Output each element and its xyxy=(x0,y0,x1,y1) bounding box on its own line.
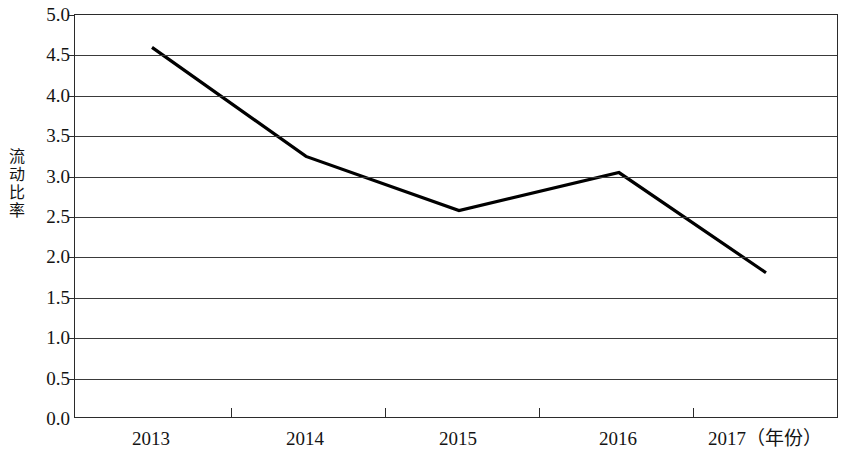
gridline xyxy=(75,136,837,137)
gridline xyxy=(75,379,837,380)
gridline xyxy=(75,257,837,258)
x-axis-tick-label: 2013 xyxy=(132,428,170,450)
y-axis-tick-label: 2.5 xyxy=(26,207,70,226)
y-axis-tick-mark xyxy=(69,217,75,218)
y-axis-tick-label: 1.0 xyxy=(26,328,70,347)
x-axis-tick-label: 2014 xyxy=(286,428,324,450)
y-axis-tick-mark xyxy=(69,136,75,137)
gridline xyxy=(75,338,837,339)
y-axis-tick-mark xyxy=(69,298,75,299)
y-axis-tick-mark xyxy=(69,257,75,258)
gridline xyxy=(75,96,837,97)
gridline xyxy=(75,217,837,218)
plot-area xyxy=(74,14,838,418)
x-axis-tick-mark xyxy=(231,408,232,417)
x-axis-tick-label: 2017（年份） xyxy=(708,428,822,450)
x-axis-tick-label: 2016 xyxy=(599,428,637,450)
y-axis-tick-mark xyxy=(69,177,75,178)
y-axis-tick-label: 2.0 xyxy=(26,247,70,266)
x-axis-tick-mark xyxy=(385,408,386,417)
y-axis-tick-label: 4.5 xyxy=(26,45,70,64)
y-axis-tick-label: 0.0 xyxy=(26,409,70,428)
y-axis-tick-label: 0.5 xyxy=(26,369,70,388)
y-axis-tick-label: 5.0 xyxy=(26,5,70,24)
y-axis-tick-mark xyxy=(69,55,75,56)
y-axis-tick-labels: 5.04.54.03.53.02.52.01.51.00.50.0 xyxy=(0,0,70,457)
y-axis-tick-mark xyxy=(69,338,75,339)
gridline xyxy=(75,55,837,56)
y-axis-tick-label: 3.0 xyxy=(26,167,70,186)
y-axis-tick-label: 3.5 xyxy=(26,126,70,145)
x-axis-tick-mark xyxy=(693,408,694,417)
x-axis-tick-mark xyxy=(539,408,540,417)
gridline xyxy=(75,298,837,299)
y-axis-tick-mark xyxy=(69,379,75,380)
line-chart: 流 动 比 率 5.04.54.03.53.02.52.01.51.00.50.… xyxy=(0,0,858,457)
x-axis-tick-label: 2015 xyxy=(439,428,477,450)
y-axis-tick-mark xyxy=(69,96,75,97)
y-axis-tick-mark xyxy=(69,15,75,16)
y-axis-tick-label: 1.5 xyxy=(26,288,70,307)
y-axis-tick-label: 4.0 xyxy=(26,86,70,105)
gridline xyxy=(75,177,837,178)
